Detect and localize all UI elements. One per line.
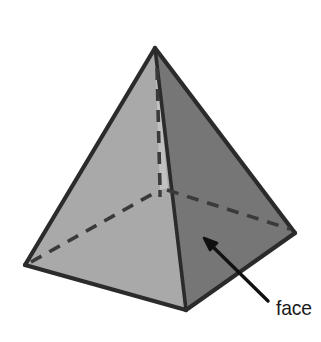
face-annotation-label: face [276,297,312,318]
pyramid-figure: face [0,0,321,342]
pyramid-illustration [0,0,321,342]
